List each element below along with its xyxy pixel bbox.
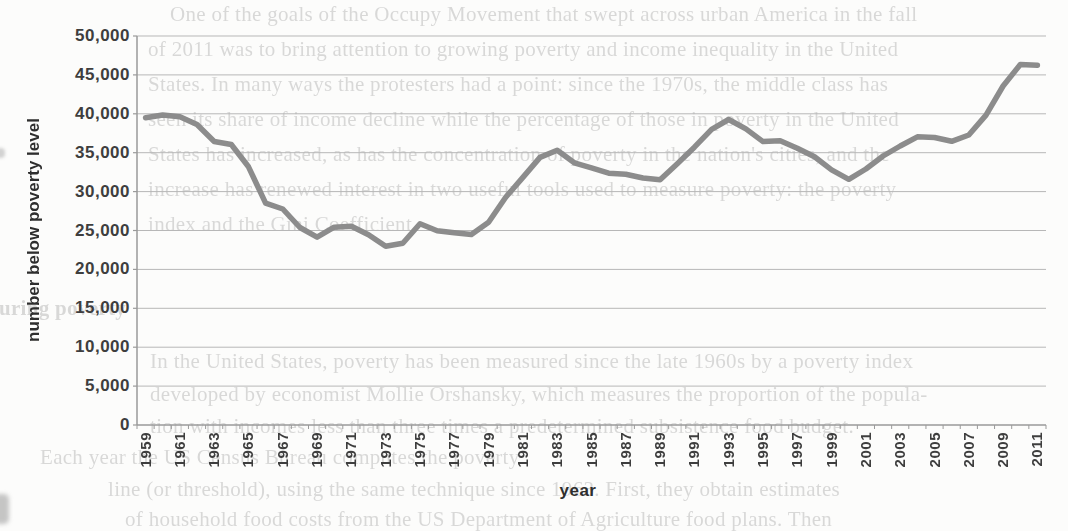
x-tick-label: 1963: [205, 432, 222, 467]
y-tick-label: 45,000: [0, 65, 130, 85]
gridlines: [137, 36, 1046, 386]
y-tick-label: 35,000: [0, 143, 130, 163]
y-tick-label: 50,000: [0, 26, 130, 46]
x-tick-label: 1959: [137, 432, 154, 467]
x-tick-label: 2001: [857, 432, 874, 467]
x-tick-label: 1979: [480, 432, 497, 467]
x-tick-label: 1999: [823, 432, 840, 467]
x-tick-label: 2007: [960, 432, 977, 467]
y-axis-title: number below poverty level: [24, 93, 46, 367]
x-tick-label: 1987: [617, 432, 634, 467]
x-tick-label: 1961: [171, 432, 188, 467]
x-axis-title: year: [488, 481, 668, 501]
x-tick-label: 1965: [239, 432, 256, 467]
y-tick-label: 5,000: [0, 376, 130, 396]
x-tick-label: 1991: [685, 432, 702, 467]
y-tick-label: 0: [0, 415, 130, 435]
y-tick-label: 30,000: [0, 182, 130, 202]
y-tick-label: 10,000: [0, 337, 130, 357]
x-tick-label: 1989: [651, 432, 668, 467]
x-tick-label: 1967: [274, 432, 291, 467]
data-series-line: [146, 65, 1038, 247]
y-tick-label: 25,000: [0, 221, 130, 241]
x-tick-label: 1981: [514, 432, 531, 467]
x-tick-label: 1977: [445, 432, 462, 467]
x-tick-label: 2005: [926, 432, 943, 467]
y-tick-label: 40,000: [0, 104, 130, 124]
x-tick-label: 1985: [583, 432, 600, 467]
tick-marks: [133, 36, 1046, 429]
x-tick-label: 1995: [754, 432, 771, 467]
y-tick-label: 15,000: [0, 298, 130, 318]
x-tick-label: 1983: [548, 432, 565, 467]
x-tick-label: 1975: [411, 432, 428, 467]
x-tick-label: 2003: [891, 432, 908, 467]
x-tick-label: 1969: [308, 432, 325, 467]
x-tick-label: 2011: [1028, 432, 1045, 467]
x-tick-label: 1973: [377, 432, 394, 467]
x-tick-label: 1997: [788, 432, 805, 467]
x-tick-label: 1971: [342, 432, 359, 467]
x-tick-label: 1993: [720, 432, 737, 467]
y-tick-label: 20,000: [0, 259, 130, 279]
x-tick-label: 2009: [994, 432, 1011, 467]
